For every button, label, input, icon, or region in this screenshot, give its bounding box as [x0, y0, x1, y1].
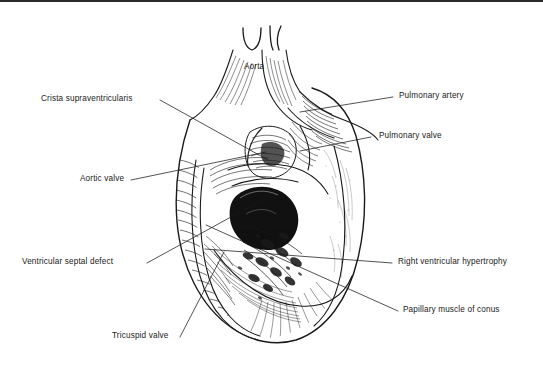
- apex-striations: [248, 282, 339, 339]
- leader-aortic-valve: [131, 152, 266, 180]
- leader-pulmonary-valve: [300, 137, 371, 151]
- pulmonary-trunk-outline: [300, 92, 378, 140]
- pulmonary-trunk-hatching: [302, 96, 352, 152]
- leader-papillary-muscle-of-conus: [206, 225, 398, 311]
- right-wall-stipple: [325, 165, 350, 262]
- label-aortic-valve: Aortic valve: [80, 175, 124, 183]
- label-right-ventricular-hypertrophy: Right ventricular hypertrophy: [398, 258, 507, 266]
- label-tricuspid-valve: Tricuspid valve: [112, 332, 169, 340]
- aortic-valve-region: [245, 126, 296, 178]
- aorta-outline: [190, 50, 233, 120]
- figure-root: Aorta Crista supraventricularis Aortic v…: [0, 0, 543, 371]
- label-aorta: Aorta: [244, 63, 264, 71]
- heart-illustration: [0, 0, 543, 371]
- label-pulmonary-valve: Pulmonary valve: [379, 132, 442, 140]
- label-crista-supraventricularis: Crista supraventricularis: [41, 95, 133, 103]
- pulmonary-valve-hatching: [288, 122, 322, 166]
- label-pulmonary-artery: Pulmonary artery: [399, 92, 464, 100]
- label-papillary-muscle-of-conus: Papillary muscle of conus: [403, 306, 500, 314]
- label-ventricular-septal-defect: Ventricular septal defect: [22, 258, 113, 266]
- vessel-stumps-icon: [243, 26, 281, 50]
- leader-crista-supraventricularis: [160, 100, 268, 160]
